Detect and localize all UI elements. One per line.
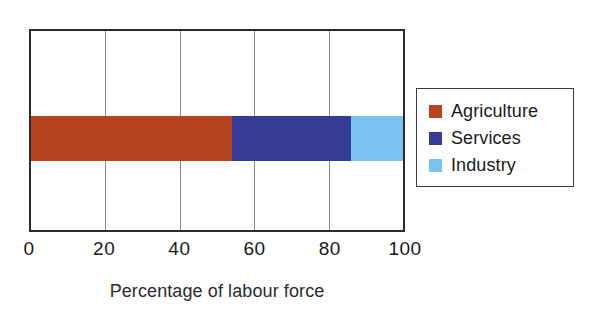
- plot-area: [29, 29, 405, 232]
- stacked-bar-chart: 020406080100 Percentage of labour force …: [0, 0, 595, 327]
- chart-title-clipped: [0, 0, 595, 8]
- legend-swatch-services: [429, 132, 442, 145]
- x-tick-0: 0: [23, 238, 34, 260]
- x-axis-title: Percentage of labour force: [29, 281, 405, 302]
- legend-label-industry: Industry: [451, 155, 516, 176]
- legend-label-services: Services: [451, 128, 521, 149]
- legend: Agriculture Services Industry: [416, 88, 574, 187]
- legend-item-services[interactable]: Services: [429, 125, 573, 152]
- stacked-bar: [31, 116, 403, 161]
- legend-item-industry[interactable]: Industry: [429, 152, 573, 179]
- legend-swatch-industry: [429, 159, 442, 172]
- x-tick-40: 40: [168, 238, 190, 260]
- bar-segment-industry[interactable]: [351, 116, 403, 161]
- x-tick-60: 60: [244, 238, 266, 260]
- x-tick-80: 80: [319, 238, 341, 260]
- bar-segment-services[interactable]: [232, 116, 351, 161]
- bar-segment-agriculture[interactable]: [31, 116, 232, 161]
- x-tick-20: 20: [93, 238, 115, 260]
- x-tick-100: 100: [388, 238, 421, 260]
- legend-label-agriculture: Agriculture: [451, 101, 538, 122]
- legend-swatch-agriculture: [429, 105, 442, 118]
- legend-item-agriculture[interactable]: Agriculture: [429, 98, 573, 125]
